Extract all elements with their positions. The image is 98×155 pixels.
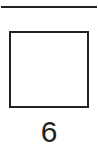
top-rule-line [1, 6, 97, 8]
shape-label: 6 [0, 116, 98, 148]
square-shape [9, 31, 89, 108]
